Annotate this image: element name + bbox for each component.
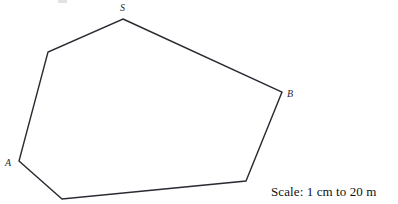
scale-annotation: Scale: 1 cm to 20 m: [271, 184, 377, 200]
vertex-label-s: S: [120, 3, 125, 13]
field-outline-polygon: [19, 19, 282, 199]
figure-page: S B A Scale: 1 cm to 20 m: [0, 0, 398, 204]
vertex-label-b: B: [287, 89, 293, 99]
vertex-label-a: A: [5, 158, 11, 168]
scale-drawing-figure: [0, 0, 398, 204]
